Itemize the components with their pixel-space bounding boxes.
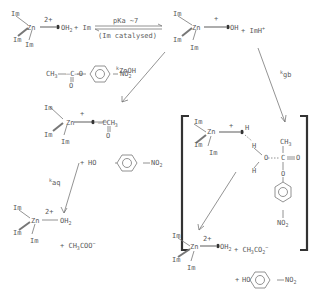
- k-gb-label: kgb: [280, 68, 291, 79]
- zinc-label: Zn: [31, 217, 39, 225]
- ligand-im: Im: [25, 41, 33, 49]
- zinc-label: Zn: [207, 128, 215, 136]
- bound-water: OH2: [60, 217, 71, 227]
- charge-label: 2+: [44, 16, 52, 24]
- hydroxide: OH: [230, 24, 238, 32]
- substrate-c-o: —C—O: [66, 70, 83, 78]
- bound-water: OH2: [220, 243, 231, 253]
- k-aq-label: kaq: [49, 176, 60, 187]
- phenol-no2: NO2: [151, 159, 162, 169]
- ts-h: H: [252, 167, 256, 175]
- ts-no2: NO2: [277, 219, 288, 229]
- ligand-im: Im: [173, 36, 181, 44]
- ligand-im: Im: [44, 131, 52, 139]
- ligand-im: Im: [187, 264, 195, 272]
- charge-label: 2+: [203, 235, 211, 243]
- ts-ch3: CH3: [280, 138, 291, 148]
- acyl-carbonyl-o: O: [106, 132, 110, 140]
- plus-sign: +: [80, 159, 84, 167]
- ts-h: H: [252, 142, 256, 150]
- ligand-im: Im: [61, 138, 69, 146]
- ligand-im: Im: [209, 149, 217, 157]
- charge-label: 2+: [45, 208, 53, 216]
- substrate-ch3: CH3: [46, 70, 57, 80]
- ts-o: O: [264, 154, 268, 162]
- ligand-im: Im: [172, 256, 180, 264]
- acyl-group: —CCH3: [98, 119, 118, 129]
- ligand-im: Im: [44, 104, 52, 112]
- ligand-im: Im: [173, 10, 181, 18]
- ligand-im: Im: [13, 36, 21, 44]
- ligand-im: Im: [194, 141, 202, 149]
- k-znoh-label: kZnOH: [116, 64, 136, 75]
- ligand-im: Im: [194, 118, 202, 126]
- ligand-im: Im: [13, 204, 21, 212]
- zinc-label: Zn: [66, 119, 74, 127]
- acetate: + CH3CO2−: [234, 243, 268, 256]
- reaction-scheme-lines: [0, 0, 328, 300]
- bound-water: OH2: [61, 24, 72, 34]
- ts-carbonyl-o: O: [296, 154, 300, 162]
- ts-ester-o: O: [281, 170, 285, 178]
- zinc-label: Zn: [190, 243, 198, 251]
- arrow-catalysed-label: (Im catalysed): [98, 32, 157, 40]
- substrate-carbonyl-o: O: [69, 82, 73, 90]
- ts-h: H: [245, 124, 249, 132]
- plus-sign: +: [235, 276, 239, 284]
- ligand-im: Im: [13, 229, 21, 237]
- ts-c: C: [281, 154, 285, 162]
- arrow-pka-label: pKa ~7: [113, 17, 138, 25]
- charge-label: +: [229, 122, 233, 130]
- charge-label: +: [80, 110, 84, 118]
- phenol-ho: HO: [88, 159, 96, 167]
- phenol-no2: NO2: [285, 276, 296, 286]
- ligand-im: Im: [190, 44, 198, 52]
- charge-label: +: [214, 15, 218, 23]
- plus-imh: + ImH+: [241, 24, 265, 35]
- ligand-im: Im: [30, 237, 38, 245]
- acetate: + CH3COO−: [60, 239, 96, 252]
- plus-im: + Im: [74, 24, 91, 32]
- zinc-label: Zn: [27, 24, 35, 32]
- zinc-label: Zn: [192, 24, 200, 32]
- ligand-im: Im: [11, 10, 19, 18]
- ligand-im: Im: [172, 232, 180, 240]
- phenol-ho: HO: [242, 276, 250, 284]
